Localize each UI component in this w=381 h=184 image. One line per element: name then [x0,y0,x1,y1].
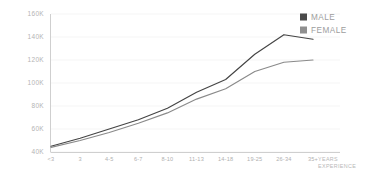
series-line-male [51,35,313,147]
y-tick-label: 60K [32,125,45,132]
y-tick-label: 160K [28,10,45,17]
x-tick-label: <3 [48,156,55,162]
y-axis-tick-labels: 160K140K120K100K80K60K40K [28,10,45,155]
x-tick-label: 35+ [308,156,318,162]
x-tick-label: 8-10 [161,156,173,162]
y-tick-label: 100K [28,79,45,86]
y-tick-label: 140K [28,33,45,40]
y-tick-label: 80K [32,102,45,109]
legend-label-female: FEMALE [311,26,347,35]
x-tick-label: 3 [78,156,81,162]
experience-salary-chart: 160K140K120K100K80K60K40K <334-56-78-101… [0,0,381,184]
legend: MALEFEMALE [300,13,347,35]
series-line-female [51,60,313,147]
x-axis-tick-labels: <334-56-78-1011-1314-1819-2526-3435+ [48,156,318,162]
x-tick-label: 19-25 [247,156,262,162]
series-lines [51,35,313,148]
legend-swatch-male [300,14,307,21]
chart-canvas: 160K140K120K100K80K60K40K <334-56-78-101… [0,0,381,184]
x-tick-label: 26-34 [276,156,291,162]
x-axis-title-line: YEARS [318,156,338,162]
y-tick-label: 120K [28,56,45,63]
y-tick-label: 40K [32,148,45,155]
x-tick-label: 4-5 [105,156,114,162]
x-tick-label: 6-7 [134,156,143,162]
x-axis-title: YEARSEXPERIENCE [318,156,356,169]
x-axis-title-line: EXPERIENCE [318,163,356,169]
x-tick-label: 14-18 [218,156,233,162]
gridlines [51,14,340,152]
x-tick-label: 11-13 [189,156,204,162]
legend-swatch-female [300,27,307,34]
legend-label-male: MALE [311,13,335,22]
